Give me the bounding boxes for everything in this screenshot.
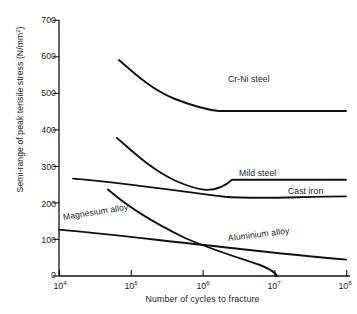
y-axis-ticks	[53, 20, 59, 276]
series-label-mild-steel: Mild steel	[239, 168, 276, 178]
series-line-cr-ni-steel	[119, 60, 346, 111]
x-axis-ticks	[60, 270, 347, 276]
series-line-mild-steel	[117, 138, 346, 190]
series-label-cr-ni-steel: Cr-Ni steel	[228, 74, 270, 84]
plot-area	[0, 0, 357, 314]
series-label-cast-iron: Cast iron	[288, 186, 323, 196]
chart-figure: Semi-range of peak tensile stress (N/mm2…	[0, 0, 357, 314]
